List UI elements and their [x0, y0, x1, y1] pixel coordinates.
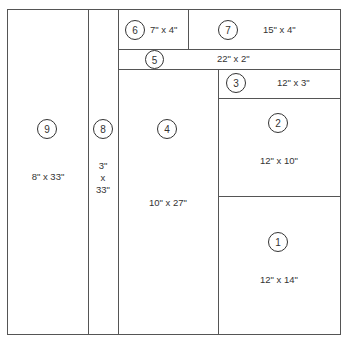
piece-number-badge: 7 [218, 20, 238, 40]
border-top [7, 9, 340, 10]
border-right [340, 9, 341, 334]
piece-number-badge: 9 [37, 119, 57, 139]
piece-dimensions: 7" x 4" [150, 24, 177, 35]
border-bottom [7, 334, 341, 335]
piece-number-badge: 6 [125, 20, 145, 40]
piece-dimensions: 12" x 10" [260, 155, 298, 166]
cutting-layout: 9 8" x 33" 8 3" x 33" 6 7" x 4" 7 15" x … [7, 9, 340, 334]
border-left [7, 9, 8, 334]
piece-dimensions: 10" x 27" [149, 197, 187, 208]
piece-number-badge: 5 [145, 50, 164, 69]
piece-number-badge: 2 [268, 113, 288, 133]
piece-dimensions: 12" x 3" [277, 77, 310, 88]
piece-dimensions: 3" x 33" [96, 160, 110, 196]
divider-4-right [218, 69, 219, 334]
piece-dimensions: 22" x 2" [217, 53, 250, 64]
divider-6-7 [188, 9, 189, 49]
piece-number-badge: 8 [93, 119, 113, 139]
divider-3-2 [218, 98, 340, 99]
divider-8-4 [118, 9, 119, 334]
piece-number-badge: 1 [268, 232, 288, 252]
divider-2-1 [218, 196, 340, 197]
piece-dimensions: 8" x 33" [32, 171, 65, 182]
piece-dimensions: 12" x 14" [260, 274, 298, 285]
piece-number-badge: 3 [226, 73, 246, 93]
divider-9-8 [88, 9, 89, 334]
piece-dimensions: 15" x 4" [263, 24, 296, 35]
divider-5-4 [118, 69, 340, 70]
piece-number-badge: 4 [157, 119, 177, 139]
